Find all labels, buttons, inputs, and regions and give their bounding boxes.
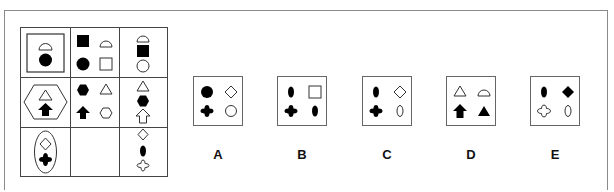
diamond-filled-icon xyxy=(562,86,574,98)
semicircle-outline-icon xyxy=(478,90,490,96)
option-d-box[interactable] xyxy=(446,76,496,126)
cross-outline-icon xyxy=(538,105,551,117)
ellipse-outline-icon xyxy=(565,106,571,117)
circle-filled-icon xyxy=(77,58,90,71)
circle-outline-icon xyxy=(226,106,237,117)
semicircle-outline-icon xyxy=(39,44,52,51)
option-a-label[interactable]: A xyxy=(193,147,243,162)
square-outline-icon xyxy=(309,86,321,98)
ellipse-filled-icon xyxy=(373,87,379,98)
semicircle-outline-icon xyxy=(100,41,112,47)
cell-r2c1 xyxy=(21,77,70,127)
cell-r3c1 xyxy=(21,127,70,177)
arrow-up-filled-icon xyxy=(453,104,467,118)
option-e-box[interactable] xyxy=(530,76,580,126)
diamond-outline-icon xyxy=(394,86,406,98)
option-b-label[interactable]: B xyxy=(277,147,327,162)
cross-filled-icon xyxy=(370,105,383,117)
option-c-label[interactable]: C xyxy=(362,147,412,162)
arrow-up-outline-icon xyxy=(136,109,150,123)
arrow-up-filled-icon xyxy=(76,106,90,119)
triangle-outline-icon xyxy=(137,81,149,91)
ellipse-outline-icon xyxy=(397,106,403,117)
cell-r3c3 xyxy=(119,127,168,177)
ellipse-filled-icon xyxy=(312,106,318,117)
circle-filled-icon xyxy=(39,54,52,67)
cross-filled-icon xyxy=(201,105,214,117)
diamond-outline-icon xyxy=(40,138,51,150)
option-a-box[interactable] xyxy=(193,76,243,126)
cell-r2c2 xyxy=(70,77,119,127)
triangle-outline-icon xyxy=(454,86,466,96)
cell-r3c2-missing xyxy=(70,127,119,177)
cell-r2c3 xyxy=(119,77,168,127)
diamond-outline-icon xyxy=(225,86,237,98)
option-b-box[interactable] xyxy=(277,76,327,126)
cross-outline-icon xyxy=(137,160,149,171)
hexagon-filled-icon xyxy=(137,96,149,107)
cross-filled-icon xyxy=(285,105,298,117)
ellipse-filled-icon xyxy=(140,146,146,157)
triangle-outline-icon xyxy=(39,90,52,100)
circle-filled-icon xyxy=(201,86,213,98)
cell-r1c3 xyxy=(119,28,168,77)
square-outline-icon xyxy=(100,58,112,70)
arrow-up-filled-icon xyxy=(38,103,53,116)
triangle-outline-icon xyxy=(100,84,112,94)
ellipse-filled-icon xyxy=(541,87,547,98)
option-e-label[interactable]: E xyxy=(530,147,580,162)
square-filled-icon xyxy=(137,45,149,57)
diamond-outline-icon xyxy=(138,129,148,140)
matrix-grid xyxy=(20,27,168,177)
circle-outline-icon xyxy=(137,60,149,72)
hexagon-filled-icon xyxy=(77,85,89,96)
ellipse-filled-icon xyxy=(288,87,294,98)
cell-r1c1 xyxy=(21,28,70,77)
cell-r1c2 xyxy=(70,28,119,77)
square-filled-icon xyxy=(77,35,89,47)
triangle-filled-icon xyxy=(478,106,490,116)
option-d-label[interactable]: D xyxy=(446,147,496,162)
cross-filled-icon xyxy=(39,153,52,166)
semicircle-outline-icon xyxy=(137,36,149,42)
hexagon-outline-icon xyxy=(100,108,112,118)
option-c-box[interactable] xyxy=(362,76,412,126)
